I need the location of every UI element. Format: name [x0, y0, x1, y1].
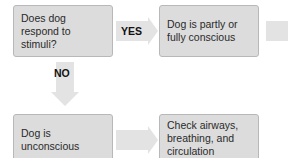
arrow-right-icon [266, 17, 288, 45]
result-box-conscious: Dog is partly or fully conscious [159, 5, 259, 57]
node-text: Dog is unconscious [21, 127, 105, 153]
yes-label: YES [121, 25, 142, 37]
node-text: Dog is partly or fully conscious [167, 18, 251, 44]
arrow-right-icon [116, 126, 158, 154]
action-box-check-abcs: Check airways, breathing, and circulatio… [159, 114, 259, 158]
question-box-responds-to-stimuli: Does dog respond to stimuli? [13, 5, 113, 57]
node-text: Check airways, breathing, and circulatio… [167, 119, 251, 158]
no-label: NO [54, 67, 70, 79]
result-box-unconscious: Dog is unconscious [13, 114, 113, 158]
node-text: Does dog respond to stimuli? [21, 12, 105, 51]
